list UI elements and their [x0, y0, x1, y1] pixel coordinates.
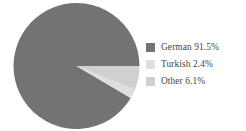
legend-swatch-other [146, 77, 155, 86]
pie-chart-svg [12, 2, 141, 130]
pie-slice-group [14, 3, 140, 129]
legend-swatch-german [146, 43, 155, 52]
legend-item-turkish[interactable]: Turkish 2.4% [146, 56, 246, 72]
legend-swatch-turkish [146, 60, 155, 69]
legend-item-german[interactable]: German 91.5% [146, 39, 246, 55]
chart-legend: German 91.5% Turkish 2.4% Other 6.1% [146, 39, 246, 90]
legend-label-other: Other 6.1% [161, 76, 205, 87]
pie-chart-figure: German 91.5% Turkish 2.4% Other 6.1% [0, 0, 246, 131]
legend-label-german: German 91.5% [161, 42, 219, 53]
pie-chart-plot-area [12, 2, 141, 130]
legend-label-turkish: Turkish 2.4% [161, 59, 213, 70]
legend-item-other[interactable]: Other 6.1% [146, 73, 246, 89]
